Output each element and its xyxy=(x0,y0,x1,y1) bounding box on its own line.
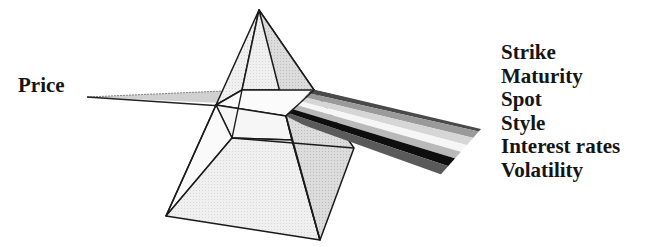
factor-strike: Strike xyxy=(501,41,620,65)
factor-interest-rates: Interest rates xyxy=(501,135,620,159)
output-factor-list: Strike Maturity Spot Style Interest rate… xyxy=(501,41,620,182)
factor-volatility: Volatility xyxy=(501,159,620,183)
factor-spot: Spot xyxy=(501,88,620,112)
factor-style: Style xyxy=(501,112,620,136)
input-label-price: Price xyxy=(18,73,65,98)
factor-maturity: Maturity xyxy=(501,65,620,89)
